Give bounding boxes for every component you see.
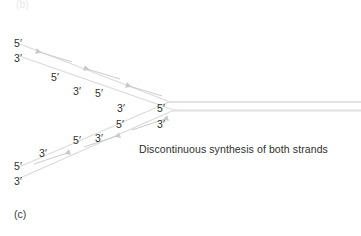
label-bottom-fragment2-5prime: 5′: [73, 135, 81, 146]
panel-label-bottom: (c): [14, 208, 26, 220]
strand-bottom-inner: [19, 102, 361, 167]
label-top-fragment2-5prime: 5′: [95, 88, 103, 99]
label-top-fragment1-5prime: 5′: [51, 72, 59, 83]
strand-top-outer: [20, 44, 361, 102]
fork-diagram-svg: [0, 0, 361, 236]
label-bottom-fragment2-3prime: 3′: [95, 133, 103, 144]
label-bottom-arm-end-5prime: 5′: [14, 161, 22, 172]
strand-lines: [19, 44, 361, 178]
arrow-top-3: [126, 85, 162, 96]
arrow-top-1: [36, 51, 72, 62]
label-fork-bottom-3prime: 3′: [157, 119, 165, 130]
label-bottom-arm-end-3prime: 3′: [14, 176, 22, 187]
panel-label-top: (b): [16, 0, 29, 10]
figure-caption: Discontinuous synthesis of both strands: [139, 143, 328, 155]
label-bottom-fragment3-5prime: 5′: [116, 119, 124, 130]
label-top-fragment1-3prime: 3′: [73, 86, 81, 97]
replication-fork-figure: (b) 5′ 3′ 5′ 3′ 5′ 3′ 5′ 3′ 5′ 5′ 3′ 3′ …: [0, 0, 361, 236]
label-top-fragment2-3prime: 3′: [117, 103, 125, 114]
arrow-top-2: [84, 68, 120, 79]
label-top-arm-end-5prime: 5′: [14, 38, 22, 49]
label-bottom-fragment1-3prime: 3′: [39, 148, 47, 159]
label-fork-top-5prime: 5′: [157, 103, 165, 114]
label-top-arm-end-3prime: 3′: [14, 53, 22, 64]
